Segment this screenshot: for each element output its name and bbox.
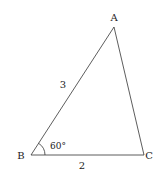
vertex-label-B: B: [17, 150, 24, 161]
vertex-label-C: C: [145, 150, 153, 161]
side-AB: [31, 27, 114, 155]
triangle-figure: A B C 3 2 60°: [0, 0, 159, 172]
side-AC: [114, 27, 144, 155]
side-label-BC: 2: [79, 160, 85, 171]
vertex-label-A: A: [109, 12, 118, 23]
side-label-AB: 3: [60, 79, 66, 90]
angle-label-B: 60°: [50, 141, 66, 151]
triangle-diagram: A B C 3 2 60°: [0, 0, 159, 172]
angle-arc-B: [39, 143, 45, 155]
